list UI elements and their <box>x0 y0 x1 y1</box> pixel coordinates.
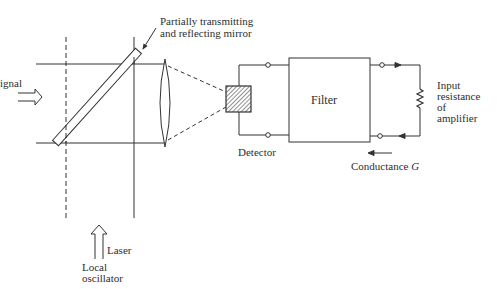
detector-top-terminal <box>266 63 271 68</box>
focus-line-bottom <box>168 107 226 140</box>
heterodyne-diagram <box>0 0 500 289</box>
input-label-line4: amplifier <box>437 112 477 124</box>
detector-bottom-terminal <box>266 133 271 138</box>
detector-bottom-lead <box>239 112 266 135</box>
signal-arrow <box>18 89 42 105</box>
current-arrow-top <box>395 63 401 68</box>
filter-top-terminal <box>380 63 385 68</box>
mirror-label-line2: and reflecting mirror <box>160 27 252 39</box>
conductance-text: Conductance <box>351 160 411 172</box>
conductance-label: Conductance G <box>351 160 419 172</box>
current-arrow-bottom <box>399 134 405 139</box>
lens <box>160 59 170 147</box>
detector-top-lead <box>239 65 266 86</box>
local-oscillator-label-line2: oscillator <box>82 272 123 284</box>
load-wire <box>384 65 420 89</box>
detector-label: Detector <box>238 146 276 158</box>
focus-line-top <box>168 66 226 92</box>
mirror-label-line1: Partially transmitting <box>160 15 253 27</box>
conductance-symbol: G <box>411 160 419 172</box>
signal-label: ignal <box>0 77 22 89</box>
mirror-leader-line <box>143 28 156 49</box>
detector <box>226 86 251 112</box>
filter-label: Filter <box>311 94 337 106</box>
laser-label: Laser <box>107 244 131 256</box>
filter-bottom-terminal <box>378 134 383 139</box>
laser-arrow <box>91 225 107 259</box>
load-resistor <box>417 89 423 108</box>
